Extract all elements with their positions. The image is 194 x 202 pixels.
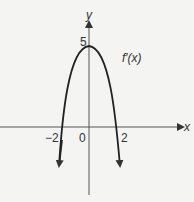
x-tick-neg2: −2 xyxy=(45,131,59,145)
chart-canvas: y x 5 −2 0 2 f′(x) xyxy=(0,0,194,202)
x-axis-label: x xyxy=(183,120,191,134)
y-tick-5: 5 xyxy=(80,35,87,49)
x-tick-2: 2 xyxy=(121,131,128,145)
curve-label: f′(x) xyxy=(122,51,142,65)
x-tick-0: 0 xyxy=(79,131,86,145)
y-axis-label: y xyxy=(85,8,93,22)
